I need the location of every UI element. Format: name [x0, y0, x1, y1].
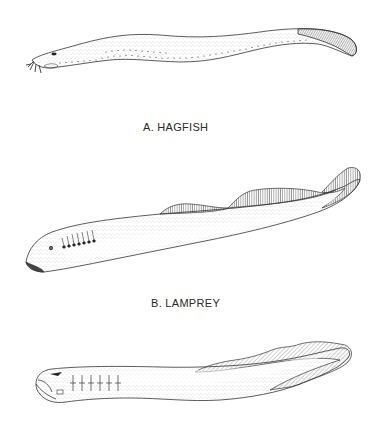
third-fish-drawing — [36, 342, 352, 403]
jawless-fish-illustration — [0, 0, 384, 431]
lamprey-label: B. LAMPREY — [151, 297, 220, 309]
hagfish-drawing — [26, 29, 357, 73]
lamprey-drawing — [26, 168, 360, 273]
hagfish-eye-spot — [51, 53, 56, 56]
hagfish-label: A. HAGFISH — [143, 121, 208, 133]
